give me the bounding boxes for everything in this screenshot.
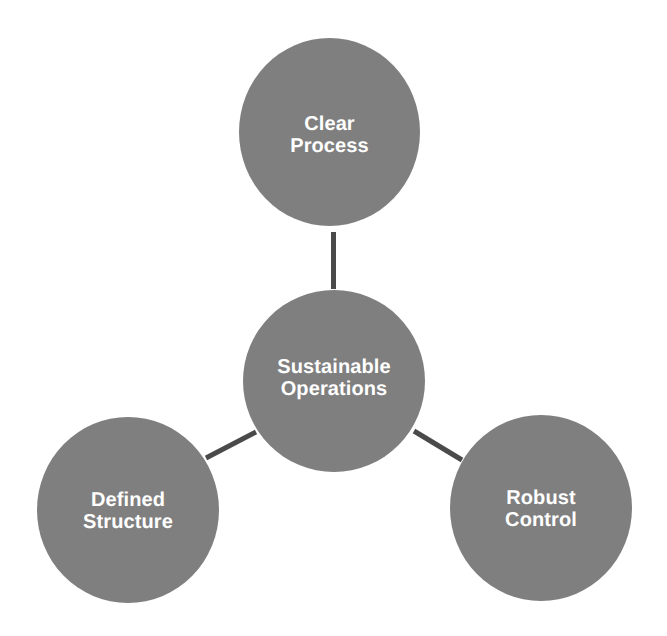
node-clear-process-label: Clear Process: [290, 113, 369, 158]
node-sustainable-operations[interactable]: Sustainable Operations: [243, 290, 425, 472]
connector-center-to-bottom-left: [206, 432, 256, 458]
node-defined-structure-label: Defined Structure: [83, 489, 173, 534]
node-sustainable-operations-label: Sustainable Operations: [277, 356, 390, 401]
connector-center-to-bottom-right: [414, 431, 462, 460]
diagram-canvas: Clear Process Sustainable Operations Def…: [0, 0, 667, 636]
node-robust-control-label: Robust Control: [505, 487, 577, 532]
node-defined-structure[interactable]: Defined Structure: [37, 417, 219, 603]
node-robust-control[interactable]: Robust Control: [450, 415, 632, 601]
node-clear-process[interactable]: Clear Process: [239, 38, 420, 226]
